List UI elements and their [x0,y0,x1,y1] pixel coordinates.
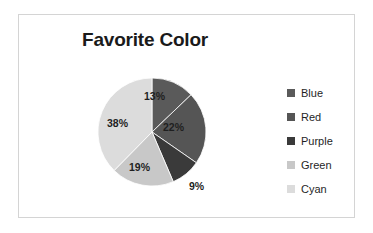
pie-chart[interactable]: 13% 22% 9% 19% 38% [97,77,207,187]
legend-item-red[interactable]: Red [287,105,371,129]
legend-item-purple[interactable]: Purple [287,129,371,153]
legend-label: Blue [301,87,323,99]
slice-label-red: 22% [163,121,184,133]
slice-label-purple: 9% [189,180,204,192]
legend-label: Green [301,159,332,171]
legend-label: Cyan [301,183,327,195]
legend-item-green[interactable]: Green [287,153,371,177]
legend-swatch-icon-purple [287,137,295,145]
chart-legend: BlueRedPurpleGreenCyan [287,81,371,201]
legend-swatch-icon-blue [287,89,295,97]
legend-swatch-icon-red [287,113,295,121]
slice-label-green: 19% [129,161,150,173]
chart-title: Favorite Color [19,29,271,51]
slice-label-cyan: 38% [107,117,128,129]
legend-label: Red [301,111,321,123]
legend-item-blue[interactable]: Blue [287,81,371,105]
slice-label-blue: 13% [144,90,165,102]
legend-label: Purple [301,135,333,147]
legend-swatch-icon-green [287,161,295,169]
legend-swatch-icon-cyan [287,185,295,193]
chart-frame: Favorite Color 13% 22% 9% 19% 38% BlueRe… [18,14,355,218]
legend-item-cyan[interactable]: Cyan [287,177,371,201]
